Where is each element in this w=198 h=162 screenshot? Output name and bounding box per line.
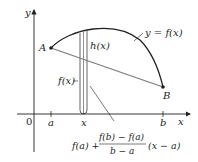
y-axis-label: y (24, 7, 31, 18)
point-B (161, 85, 165, 89)
tick-x-label: x (81, 117, 87, 128)
origin-label: 0 (26, 116, 32, 127)
formula-lead: f(a) + (71, 140, 100, 151)
point-B-label: B (162, 90, 170, 101)
h-label: h(x) (90, 40, 110, 51)
point-A-label: A (38, 42, 46, 53)
point-A (49, 46, 53, 50)
mean-value-theorem-diagram: y x 0 A B a x b y = f(x) h(x) f(x) f(a) … (0, 0, 198, 162)
formula-leader (90, 86, 114, 121)
tick-b-label: b (160, 117, 166, 128)
tick-a-label: a (48, 117, 54, 128)
x-axis-label: x (178, 116, 184, 127)
formula-denominator: b − a (110, 146, 134, 156)
f-label: f(x) (57, 75, 75, 86)
formula-numerator: f(b) − f(a) (98, 132, 145, 142)
formula-tail: (x − a) (148, 140, 181, 151)
curve-label: y = f(x) (144, 27, 183, 38)
